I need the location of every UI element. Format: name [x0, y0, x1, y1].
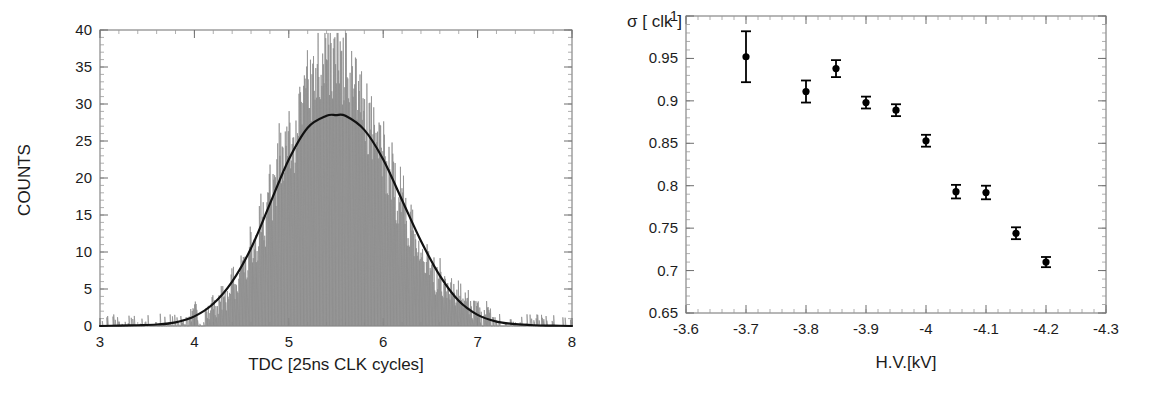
histogram-noise-trace — [100, 33, 572, 326]
data-point-marker — [952, 188, 959, 195]
y-tick-label: 25 — [75, 132, 92, 149]
x-tick-label: -3.7 — [733, 320, 759, 337]
sigma-vs-hv-svg: -3.6-3.7-3.8-3.9-4-4.1-4.2-4.30.650.70.7… — [576, 0, 1156, 394]
data-point-with-errorbar — [1041, 257, 1051, 267]
data-point-with-errorbar — [831, 60, 841, 77]
data-point-with-errorbar — [891, 104, 901, 116]
y-tick-label: 0.9 — [657, 92, 678, 109]
y-axis-title-left: COUNTS — [15, 144, 34, 216]
y-tick-label: 0.8 — [657, 177, 678, 194]
data-point-with-errorbar — [981, 186, 991, 200]
data-point-with-errorbar — [951, 185, 961, 199]
figure-root: 3456780510152025303540 TDC [25ns CLK cyc… — [0, 0, 1156, 394]
data-point-with-errorbar — [801, 80, 811, 102]
x-tick-label: -4.2 — [1033, 320, 1059, 337]
y-tick-label: 0.75 — [649, 219, 678, 236]
data-point-with-errorbar — [741, 31, 751, 82]
y-tick-label: 0 — [84, 317, 92, 334]
y-tick-label: 0.85 — [649, 134, 678, 151]
x-tick-label: 7 — [473, 333, 481, 350]
x-tick-label: 8 — [568, 333, 576, 350]
data-point-marker — [742, 53, 749, 60]
plot-frame — [686, 16, 1106, 313]
y-tick-label: 15 — [75, 206, 92, 223]
data-point-with-errorbar — [861, 97, 871, 109]
data-point-marker — [1012, 230, 1019, 237]
x-tick-label: -4.3 — [1093, 320, 1119, 337]
x-axis-title-right: H.V.[kV] — [876, 353, 937, 372]
data-point-marker — [862, 99, 869, 106]
data-point-marker — [802, 88, 809, 95]
x-tick-label: -3.9 — [853, 320, 879, 337]
y-tick-label: 5 — [84, 280, 92, 297]
data-point-marker — [1042, 258, 1049, 265]
y-tick-label: 0.7 — [657, 262, 678, 279]
y-tick-label: 35 — [75, 58, 92, 75]
data-point-with-errorbar — [1011, 227, 1021, 239]
y-tick-label: 40 — [75, 21, 92, 38]
x-axis-title-left: TDC [25ns CLK cycles] — [248, 355, 424, 374]
x-tick-label: -3.6 — [673, 320, 699, 337]
y-tick-label: 0.95 — [649, 49, 678, 66]
x-tick-label: -3.8 — [793, 320, 819, 337]
chart-panel-tdc-histogram: 3456780510152025303540 TDC [25ns CLK cyc… — [0, 0, 580, 394]
data-point-marker — [892, 107, 899, 114]
x-tick-label: -4 — [919, 320, 932, 337]
x-tick-label: 6 — [379, 333, 387, 350]
data-point-with-errorbar — [921, 135, 931, 147]
y-tick-label: 30 — [75, 95, 92, 112]
y-tick-label: 0.65 — [649, 304, 678, 321]
data-point-marker — [922, 137, 929, 144]
x-tick-label: 5 — [285, 333, 293, 350]
x-tick-label: 3 — [96, 333, 104, 350]
y-tick-label: 20 — [75, 169, 92, 186]
data-point-marker — [832, 65, 839, 72]
x-tick-label: 4 — [190, 333, 198, 350]
y-tick-label: 10 — [75, 243, 92, 260]
chart-panel-sigma-vs-hv: -3.6-3.7-3.8-3.9-4-4.1-4.2-4.30.650.70.7… — [576, 0, 1156, 394]
x-tick-label: -4.1 — [973, 320, 999, 337]
sigma-axis-title: σ [ clk ] — [627, 12, 682, 31]
tdc-histogram-svg: 3456780510152025303540 TDC [25ns CLK cyc… — [0, 0, 580, 394]
data-point-marker — [982, 189, 989, 196]
